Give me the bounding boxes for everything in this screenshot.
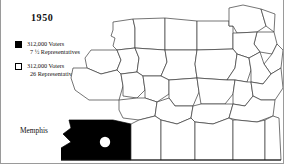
state-map-svg	[61, 2, 284, 164]
memphis-label: Memphis	[20, 126, 48, 135]
page-title: 1950	[31, 12, 53, 23]
county-polygon	[197, 78, 235, 104]
map-canvas	[61, 2, 284, 164]
county-polygon	[233, 120, 265, 160]
county-polygon	[71, 68, 123, 100]
filled-square-icon	[15, 41, 22, 48]
county-polygon	[143, 76, 169, 102]
county-polygon	[131, 116, 161, 160]
county-polygon	[121, 72, 145, 98]
county-polygon	[117, 48, 139, 74]
hollow-square-icon	[15, 63, 22, 70]
county-polygon	[169, 78, 199, 106]
memphis-city-dot	[100, 137, 110, 147]
county-polygon	[165, 18, 197, 50]
figure-container: 1950 312,000 Voters 7 ½ Representatives …	[0, 0, 284, 164]
county-polygon	[195, 118, 233, 160]
county-polygon	[161, 50, 197, 80]
county-polygon	[265, 116, 281, 160]
county-polygon	[161, 118, 195, 160]
county-polygons	[61, 5, 283, 160]
county-polygon	[197, 21, 233, 50]
county-polygon	[111, 19, 135, 50]
county-polygon-memphis-shelby	[61, 120, 131, 160]
county-polygon	[135, 48, 167, 76]
county-polygon	[229, 5, 266, 33]
county-polygon	[133, 18, 165, 50]
